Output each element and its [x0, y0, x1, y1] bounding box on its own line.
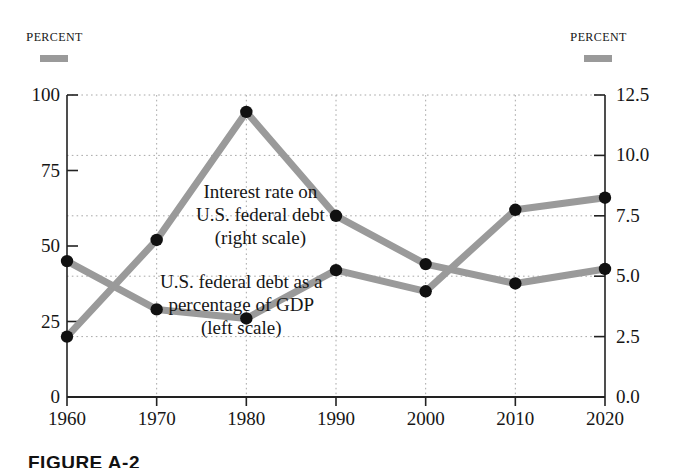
x-tick-label: 2000: [391, 409, 461, 428]
series-data-point: [61, 255, 73, 267]
x-tick-label: 1960: [32, 409, 102, 428]
x-tick-label: 2010: [480, 409, 550, 428]
right-tick-label: 5.0: [616, 266, 672, 285]
annotation-debt-line-3: (left scale): [160, 316, 323, 339]
series-data-point: [599, 191, 611, 203]
right-tick-label: 10.0: [616, 145, 672, 164]
annotation-interest-rate: Interest rate on U.S. federal debt (righ…: [196, 180, 325, 250]
series-data-point: [330, 264, 342, 276]
series-data-point: [330, 210, 342, 222]
left-tick-label: 0: [8, 387, 60, 406]
series-data-point: [240, 106, 252, 118]
annotation-interest-line-3: (right scale): [196, 226, 325, 249]
left-tick-label: 25: [8, 312, 60, 331]
right-tick-label: 7.5: [616, 206, 672, 225]
figure-container: PERCENT PERCENT 0255075100 0.02.55.07.51…: [0, 0, 677, 468]
annotation-interest-line-2: U.S. federal debt: [196, 203, 325, 226]
annotation-debt-line-2: percentage of GDP: [160, 293, 323, 316]
x-tick-label: 1970: [122, 409, 192, 428]
left-tick-label: 100: [8, 85, 60, 104]
x-tick-label: 2020: [570, 409, 640, 428]
right-tick-label: 12.5: [616, 85, 672, 104]
x-tick-label: 1990: [301, 409, 371, 428]
series-data-point: [61, 330, 73, 342]
series-data-point: [509, 204, 521, 216]
annotation-federal-debt: U.S. federal debt as a percentage of GDP…: [160, 270, 323, 340]
series-data-point: [150, 234, 162, 246]
series-data-point: [509, 277, 521, 289]
left-tick-label: 75: [8, 161, 60, 180]
series-data-point: [419, 285, 431, 297]
figure-caption: FIGURE A-2: [28, 452, 140, 468]
right-tick-label: 2.5: [616, 327, 672, 346]
annotation-interest-line-1: Interest rate on: [196, 180, 325, 203]
x-tick-label: 1980: [211, 409, 281, 428]
right-tick-label: 0.0: [616, 387, 672, 406]
series-data-point: [599, 263, 611, 275]
annotation-debt-line-1: U.S. federal debt as a: [160, 270, 323, 293]
chart-plot-area: [0, 0, 677, 468]
series-data-point: [419, 258, 431, 270]
left-tick-label: 50: [8, 236, 60, 255]
